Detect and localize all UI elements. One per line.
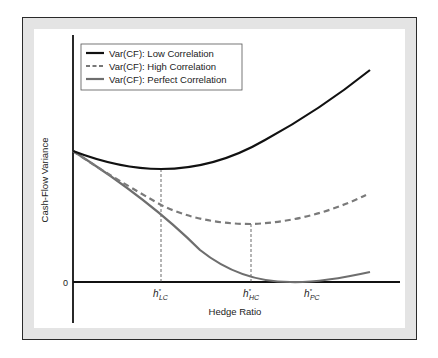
tick-sub: LC [159, 294, 169, 301]
y-zero-label: 0 [63, 278, 68, 288]
chart-svg: Var(CF): Low Correlation Var(CF): High C… [0, 0, 438, 358]
legend-label-low: Var(CF): Low Correlation [109, 48, 214, 59]
legend-label-perfect: Var(CF): Perfect Correlation [109, 74, 227, 85]
svg-text:h*HC: h*HC [243, 288, 260, 301]
y-axis-title: Cash-Flow Variance [39, 138, 50, 223]
tick-h-pc: h*PC [304, 288, 321, 301]
legend: Var(CF): Low Correlation Var(CF): High C… [81, 44, 242, 90]
svg-text:h*LC: h*LC [153, 288, 169, 301]
tick-h-hc: h*HC [243, 288, 260, 301]
tick-sub: HC [249, 294, 260, 301]
tick-sub: PC [310, 294, 321, 301]
series-high-correlation [73, 151, 366, 224]
svg-text:h*PC: h*PC [304, 288, 321, 301]
series-perfect-correlation [73, 151, 370, 282]
legend-label-high: Var(CF): High Correlation [109, 61, 216, 72]
tick-h-lc: h*LC [153, 288, 169, 301]
x-axis-title: Hedge Ratio [209, 306, 262, 317]
